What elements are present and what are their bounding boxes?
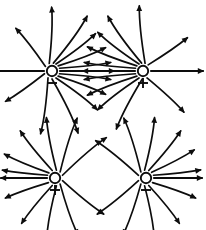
electric-field-diagram (0, 0, 206, 230)
field-line (16, 28, 46, 66)
field-line-arrowhead (198, 68, 204, 74)
field-line-canvas (0, 0, 206, 230)
field-line-arrowhead (44, 116, 50, 123)
charge-bottom-left (50, 173, 60, 195)
field-line (96, 141, 139, 176)
field-line (58, 76, 105, 94)
field-line-arrowhead (197, 175, 203, 181)
field-line (53, 16, 87, 63)
field-line (154, 170, 201, 175)
field-line (145, 186, 155, 230)
field-line-arrowhead (136, 5, 142, 11)
field-line (139, 6, 145, 63)
field-line (97, 181, 138, 214)
field-line (46, 118, 56, 171)
field-line (88, 76, 137, 95)
charge-circle-icon (141, 173, 151, 183)
field-line-arrowhead (74, 127, 80, 134)
field-line (108, 16, 142, 63)
field-line (5, 183, 48, 198)
field-line (49, 7, 52, 63)
field-line-arrowhead (1, 168, 8, 174)
field-line (145, 118, 155, 171)
field-line (149, 186, 180, 224)
field-line-arrowhead (0, 175, 6, 181)
charge-circle-icon (50, 173, 60, 183)
field-line (148, 38, 187, 65)
field-line-arrowhead (115, 123, 120, 130)
field-line (3, 170, 48, 175)
charge-circle-icon (138, 66, 148, 76)
field-line (58, 48, 105, 66)
field-lines-layer (0, 5, 204, 230)
field-line (153, 183, 196, 198)
charge-circle-icon (47, 66, 57, 76)
field-line-arrowhead (82, 68, 88, 74)
field-line (4, 154, 48, 173)
field-line (116, 79, 142, 129)
field-line (147, 78, 184, 112)
field-line-arrowhead (195, 168, 202, 174)
field-line (6, 74, 45, 102)
field-line (63, 181, 104, 214)
field-line (149, 131, 181, 170)
field-line (22, 186, 53, 224)
field-line-arrowhead (49, 6, 55, 13)
field-line (88, 47, 137, 66)
field-line-arrowhead (151, 116, 157, 123)
